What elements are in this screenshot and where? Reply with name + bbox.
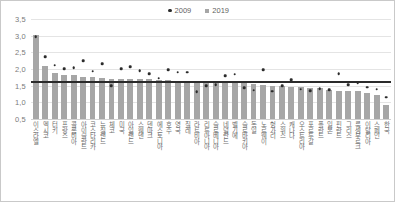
bar-group[interactable] (287, 19, 296, 119)
bar-2019[interactable] (194, 82, 200, 119)
bar-group[interactable] (372, 19, 381, 119)
bar-group[interactable] (78, 19, 87, 119)
bar-2019[interactable] (52, 73, 58, 119)
bar-2019[interactable] (374, 95, 380, 119)
bar-group[interactable] (353, 19, 362, 119)
bar-group[interactable] (315, 19, 324, 119)
data-point-2009[interactable] (366, 86, 369, 89)
data-point-2009[interactable] (319, 88, 322, 91)
data-point-2009[interactable] (385, 96, 388, 99)
data-point-2009[interactable] (337, 72, 340, 75)
bar-group[interactable] (381, 19, 390, 119)
bar-2019[interactable] (298, 87, 304, 119)
bar-2019[interactable] (317, 88, 323, 119)
bar-group[interactable] (230, 19, 239, 119)
bar-group[interactable] (31, 19, 40, 119)
bar-group[interactable] (183, 19, 192, 119)
bar-2019[interactable] (383, 105, 389, 119)
bar-group[interactable] (107, 19, 116, 119)
bar-group[interactable] (325, 19, 334, 119)
bar-group[interactable] (145, 19, 154, 119)
bar-2019[interactable] (355, 91, 361, 119)
data-point-2009[interactable] (110, 85, 113, 88)
bar-2019[interactable] (184, 81, 190, 119)
data-point-2009[interactable] (233, 73, 236, 76)
bar-2019[interactable] (326, 90, 332, 119)
bar-2019[interactable] (165, 80, 171, 119)
data-point-2009[interactable] (195, 91, 198, 94)
data-point-2009[interactable] (53, 64, 56, 67)
bar-group[interactable] (277, 19, 286, 119)
data-point-2009[interactable] (214, 83, 217, 86)
data-point-2009[interactable] (290, 79, 293, 82)
data-point-2009[interactable] (139, 70, 142, 73)
bar-group[interactable] (50, 19, 59, 119)
bar-2019[interactable] (307, 88, 313, 119)
bar-2019[interactable] (213, 82, 219, 119)
bar-group[interactable] (239, 19, 248, 119)
bar-group[interactable] (173, 19, 182, 119)
data-point-2009[interactable] (243, 86, 246, 89)
bar-2019[interactable] (345, 91, 351, 119)
legend-item-2009[interactable]: 2009 (168, 6, 191, 15)
data-point-2009[interactable] (347, 84, 350, 87)
bar-group[interactable] (362, 19, 371, 119)
bar-2019[interactable] (42, 66, 48, 119)
bar-2019[interactable] (279, 86, 285, 119)
bar-2019[interactable] (156, 80, 162, 119)
bar-2019[interactable] (118, 79, 124, 119)
data-point-2009[interactable] (129, 66, 132, 69)
data-point-2009[interactable] (34, 36, 37, 39)
data-point-2009[interactable] (176, 71, 179, 74)
bar-2019[interactable] (90, 77, 96, 119)
bar-2019[interactable] (146, 79, 152, 119)
bar-group[interactable] (154, 19, 163, 119)
bar-2019[interactable] (203, 82, 209, 119)
bar-group[interactable] (334, 19, 343, 119)
bar-group[interactable] (97, 19, 106, 119)
bar-2019[interactable] (260, 85, 266, 119)
bar-group[interactable] (164, 19, 173, 119)
data-point-2009[interactable] (72, 66, 75, 69)
bar-group[interactable] (69, 19, 78, 119)
bar-group[interactable] (201, 19, 210, 119)
data-point-2009[interactable] (375, 88, 378, 91)
bar-group[interactable] (135, 19, 144, 119)
bar-2019[interactable] (80, 77, 86, 119)
data-point-2009[interactable] (120, 67, 123, 70)
data-point-2009[interactable] (262, 68, 265, 71)
data-point-2009[interactable] (148, 73, 151, 76)
bar-group[interactable] (116, 19, 125, 119)
bar-group[interactable] (59, 19, 68, 119)
data-point-2009[interactable] (356, 81, 359, 84)
bar-2019[interactable] (288, 87, 294, 119)
data-point-2009[interactable] (281, 84, 284, 87)
data-point-2009[interactable] (271, 90, 274, 93)
bar-2019[interactable] (137, 79, 143, 119)
bar-group[interactable] (40, 19, 49, 119)
bar-2019[interactable] (336, 91, 342, 119)
data-point-2009[interactable] (309, 90, 312, 93)
bar-2019[interactable] (175, 81, 181, 119)
bar-group[interactable] (220, 19, 229, 119)
bar-group[interactable] (192, 19, 201, 119)
bar-2019[interactable] (33, 35, 39, 119)
data-point-2009[interactable] (252, 89, 255, 92)
data-point-2009[interactable] (91, 70, 94, 73)
bar-group[interactable] (249, 19, 258, 119)
data-point-2009[interactable] (167, 69, 170, 72)
data-point-2009[interactable] (300, 88, 303, 91)
data-point-2009[interactable] (224, 75, 227, 78)
data-point-2009[interactable] (101, 63, 104, 66)
bar-group[interactable] (211, 19, 220, 119)
bar-group[interactable] (258, 19, 267, 119)
data-point-2009[interactable] (186, 71, 189, 74)
data-point-2009[interactable] (82, 59, 85, 62)
bar-2019[interactable] (232, 83, 238, 119)
bar-group[interactable] (126, 19, 135, 119)
data-point-2009[interactable] (63, 68, 66, 71)
bar-group[interactable] (306, 19, 315, 119)
bar-group[interactable] (88, 19, 97, 119)
data-point-2009[interactable] (205, 84, 208, 87)
bar-group[interactable] (343, 19, 352, 119)
